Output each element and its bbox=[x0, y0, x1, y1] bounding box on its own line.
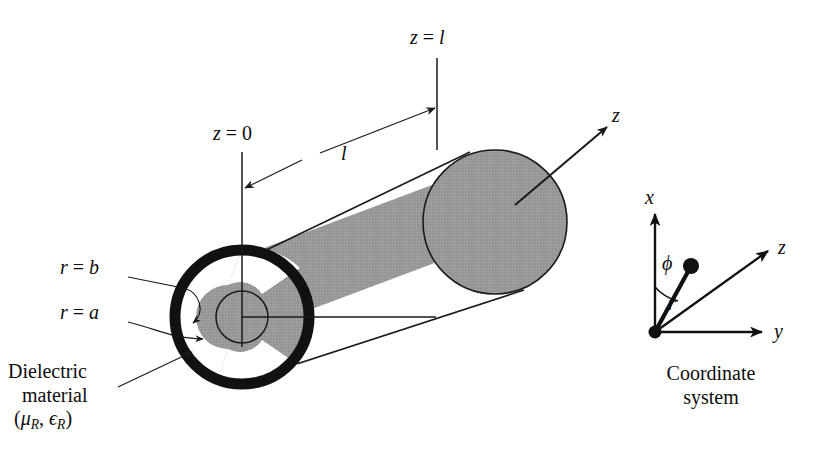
label-length-l: l bbox=[341, 142, 347, 166]
label-coord-z-axis: z bbox=[778, 236, 786, 260]
dielectric-line-1: Dielectric bbox=[8, 360, 88, 384]
dielectric-parameters: (μR, ϵR) bbox=[8, 407, 88, 433]
coordinate-caption-line-2: system bbox=[636, 386, 786, 410]
leader-dielectric-material bbox=[118, 352, 192, 387]
dielectric-line-2: material bbox=[8, 384, 88, 408]
length-arrow-lower bbox=[245, 160, 302, 188]
label-r-equals-b: r = b bbox=[60, 256, 99, 280]
label-coord-phi: ϕ bbox=[662, 252, 672, 276]
label-coord-y-axis: y bbox=[774, 320, 783, 344]
label-z-equals-ell: z = l bbox=[410, 26, 445, 50]
coordinate-system-diagram bbox=[649, 214, 769, 339]
label-coord-r: r bbox=[668, 292, 676, 316]
coaxial-cable-figure: z = 0 z = l l z r = b r = a Dielectric m… bbox=[0, 0, 835, 456]
cylinder-right-end-cap bbox=[423, 150, 567, 294]
label-z-equals-zero: z = 0 bbox=[213, 122, 252, 146]
length-dimension-l bbox=[245, 108, 435, 188]
label-cable-z-axis: z bbox=[612, 104, 620, 128]
label-r-equals-a: r = a bbox=[60, 301, 99, 325]
coordinate-system-caption: Coordinate system bbox=[636, 362, 786, 409]
label-coord-x-axis: x bbox=[645, 186, 654, 210]
coaxial-cylinder bbox=[162, 150, 567, 391]
coord-origin-dot bbox=[649, 326, 662, 339]
length-arrow-upper bbox=[320, 108, 435, 153]
coord-point-dot bbox=[683, 258, 699, 274]
coordinate-caption-line-1: Coordinate bbox=[636, 362, 786, 386]
label-dielectric-material: Dielectric material (μR, ϵR) bbox=[8, 360, 88, 433]
